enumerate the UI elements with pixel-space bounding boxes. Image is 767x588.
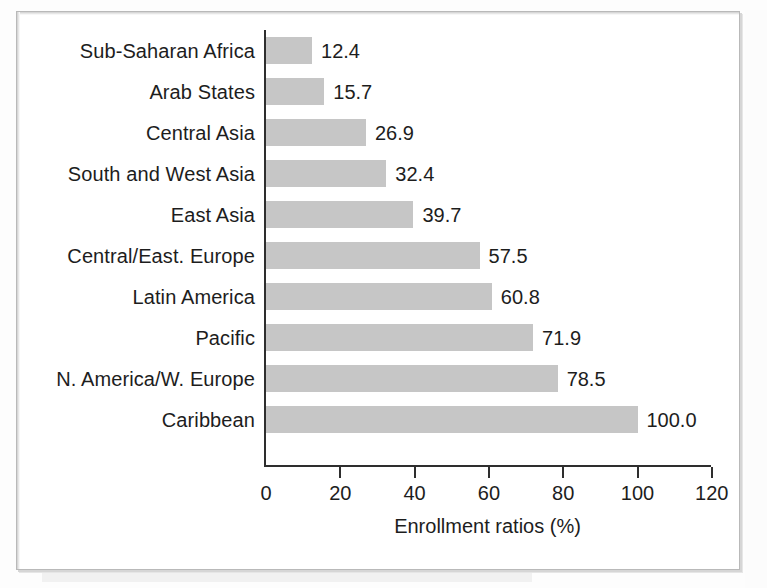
bar-row: South and West Asia32.4: [17, 153, 741, 194]
x-axis-tick-label: 80: [552, 482, 574, 505]
x-axis-tick-label: 20: [329, 482, 351, 505]
category-label: Pacific: [195, 326, 255, 349]
category-label: South and West Asia: [68, 162, 255, 185]
bar-row: Pacific71.9: [17, 317, 741, 358]
bar-value-label: 12.4: [321, 39, 360, 62]
category-label: Sub-Saharan Africa: [80, 39, 255, 62]
x-axis-tick: [562, 467, 564, 478]
category-label: Central Asia: [146, 121, 255, 144]
bar-row: Sub-Saharan Africa12.4: [17, 30, 741, 71]
bar-value-label: 71.9: [542, 326, 581, 349]
bar: [266, 406, 638, 433]
x-axis-tick-label: 60: [478, 482, 500, 505]
bar: [266, 365, 558, 392]
bar: [266, 119, 366, 146]
x-axis-tick: [414, 467, 416, 478]
bar-value-label: 100.0: [647, 408, 697, 431]
bar-row: Arab States15.7: [17, 71, 741, 112]
category-label: N. America/W. Europe: [56, 367, 255, 390]
x-axis-tick-label: 100: [621, 482, 654, 505]
bar: [266, 242, 480, 269]
bar-row: Latin America60.8: [17, 276, 741, 317]
x-axis-tick: [711, 467, 713, 478]
bar: [266, 324, 533, 351]
bar-row: Central Asia26.9: [17, 112, 741, 153]
x-axis-tick-label: 0: [260, 482, 271, 505]
bar-value-label: 60.8: [501, 285, 540, 308]
category-label: East Asia: [171, 203, 255, 226]
bar: [266, 78, 324, 105]
bar-value-label: 57.5: [489, 244, 528, 267]
bar-value-label: 15.7: [333, 80, 372, 103]
category-label: Central/East. Europe: [67, 244, 255, 267]
scanned-page: Sub-Saharan Africa12.4Arab States15.7Cen…: [0, 0, 767, 588]
bar-row: N. America/W. Europe78.5: [17, 358, 741, 399]
x-axis-tick-label: 40: [403, 482, 425, 505]
bar: [266, 160, 386, 187]
category-label: Caribbean: [162, 408, 255, 431]
bar-row: Central/East. Europe57.5: [17, 235, 741, 276]
scan-shadow-band-right: [745, 10, 767, 588]
bar: [266, 283, 492, 310]
bar-row: East Asia39.7: [17, 194, 741, 235]
x-axis-tick: [339, 467, 341, 478]
bar-value-label: 32.4: [395, 162, 434, 185]
bar-value-label: 39.7: [422, 203, 461, 226]
bar-row: Caribbean100.0: [17, 399, 741, 440]
bar: [266, 201, 413, 228]
category-label: Arab States: [149, 80, 255, 103]
category-label: Latin America: [133, 285, 255, 308]
chart-frame: Sub-Saharan Africa12.4Arab States15.7Cen…: [16, 11, 740, 570]
bar-chart-plot: Sub-Saharan Africa12.4Arab States15.7Cen…: [17, 12, 741, 571]
bar: [266, 37, 312, 64]
bar-value-label: 26.9: [375, 121, 414, 144]
x-axis-tick: [637, 467, 639, 478]
x-axis-tick-label: 120: [695, 482, 728, 505]
x-axis-title: Enrollment ratios (%): [264, 515, 711, 538]
x-axis-tick: [488, 467, 490, 478]
bar-value-label: 78.5: [567, 367, 606, 390]
